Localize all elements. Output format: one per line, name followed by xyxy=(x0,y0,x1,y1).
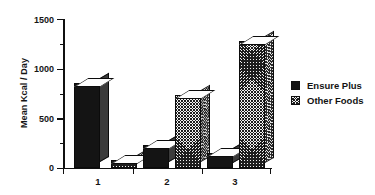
x-tick-label-2: 2 xyxy=(155,177,179,187)
bar-other-foods-1 xyxy=(111,160,137,167)
bar-side-face xyxy=(265,30,274,162)
x-axis-line xyxy=(63,168,272,170)
bar-front-face xyxy=(239,41,265,168)
bar-ensure-plus-3 xyxy=(207,153,233,168)
y-axis-line xyxy=(63,19,65,169)
x-tick-1 xyxy=(133,169,134,174)
y-axis-title: Mean Kcal / Day xyxy=(19,23,29,163)
legend-item-ensure-plus: Ensure Plus xyxy=(291,79,363,92)
solid-swatch-icon xyxy=(291,81,300,90)
y-tick-label-1500: 1500 xyxy=(0,16,54,25)
bar-ensure-plus-1 xyxy=(74,83,100,167)
chart-legend: Ensure Plus Other Foods xyxy=(291,79,363,109)
x-tick-label-3: 3 xyxy=(223,177,247,187)
x-tick-2 xyxy=(202,169,203,174)
x-tick-start xyxy=(63,169,64,174)
legend-item-other-foods: Other Foods xyxy=(291,94,363,107)
y-tick-label-0: 0 xyxy=(0,164,54,173)
bar-front-face xyxy=(74,83,100,167)
x-tick-end xyxy=(270,169,271,174)
x-tick-label-1: 1 xyxy=(86,177,110,187)
hatched-swatch-icon xyxy=(291,96,300,105)
bar-front-face xyxy=(175,95,201,167)
y-tick-label-1000: 1000 xyxy=(0,65,54,74)
legend-label-other-foods: Other Foods xyxy=(307,96,363,106)
bar-other-foods-2 xyxy=(175,95,201,167)
bar-chart: Mean Kcal / Day 1500 1000 500 0 xyxy=(0,0,375,195)
bar-ensure-plus-2 xyxy=(143,145,169,167)
legend-label-ensure-plus: Ensure Plus xyxy=(307,81,362,91)
bar-side-face xyxy=(100,73,109,163)
y-tick-label-500: 500 xyxy=(0,115,54,124)
bar-other-foods-3 xyxy=(239,41,265,168)
